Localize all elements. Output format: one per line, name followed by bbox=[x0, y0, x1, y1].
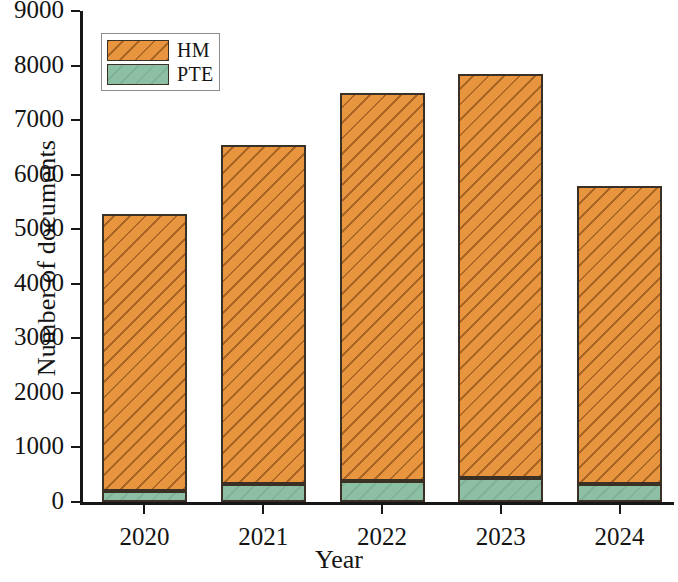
x-axis-tick bbox=[262, 503, 264, 514]
y-axis-tick: 6000 bbox=[71, 174, 80, 176]
legend-item-hm: HM bbox=[107, 38, 213, 62]
y-axis-tick: 8000 bbox=[71, 65, 80, 67]
bar-segment-hm[interactable] bbox=[577, 186, 662, 484]
y-axis-tick: 9000 bbox=[71, 10, 80, 12]
y-axis-tick-label: 2000 bbox=[14, 379, 64, 404]
y-axis-tick-label: 6000 bbox=[14, 161, 64, 186]
y-axis-tick: 3000 bbox=[71, 337, 80, 339]
y-axis-tick: 4000 bbox=[71, 283, 80, 285]
x-axis-tick-label: 2023 bbox=[436, 523, 566, 551]
y-axis-tick-label: 5000 bbox=[14, 215, 64, 240]
bar-stack[interactable] bbox=[102, 214, 187, 502]
x-axis-tick bbox=[381, 503, 383, 514]
bar-chart: Number of documents Year 010002000300040… bbox=[0, 0, 678, 582]
bar-segment-hm[interactable] bbox=[221, 145, 306, 484]
legend-label-hm: HM bbox=[177, 40, 210, 60]
y-axis-tick: 5000 bbox=[71, 228, 80, 230]
y-axis-tick-label: 8000 bbox=[14, 52, 64, 77]
bar-stack[interactable] bbox=[458, 74, 543, 502]
y-axis-tick-label: 0 bbox=[52, 488, 65, 513]
y-axis-tick-label: 7000 bbox=[14, 106, 64, 131]
legend-swatch-pte bbox=[107, 64, 169, 85]
bar-stack[interactable] bbox=[221, 145, 306, 502]
legend-label-pte: PTE bbox=[177, 64, 213, 84]
y-axis-tick: 7000 bbox=[71, 119, 80, 121]
y-axis-tick-label: 9000 bbox=[14, 0, 64, 22]
x-axis-tick bbox=[500, 503, 502, 514]
bar-stack[interactable] bbox=[577, 186, 662, 502]
y-axis-line bbox=[80, 11, 83, 505]
legend-item-pte: PTE bbox=[107, 62, 213, 86]
bar-segment-pte[interactable] bbox=[221, 484, 306, 502]
x-axis-tick bbox=[619, 503, 621, 514]
legend-swatch-hm bbox=[107, 40, 169, 61]
y-axis-tick: 1000 bbox=[71, 446, 80, 448]
x-axis-tick-label: 2021 bbox=[198, 523, 328, 551]
x-axis-tick bbox=[143, 503, 145, 514]
bar-segment-hm[interactable] bbox=[340, 93, 425, 481]
y-axis-tick-label: 1000 bbox=[14, 433, 64, 458]
bar-segment-pte[interactable] bbox=[102, 491, 187, 502]
x-axis-tick-label: 2024 bbox=[555, 523, 678, 551]
bar-stack[interactable] bbox=[340, 93, 425, 502]
bar-segment-hm[interactable] bbox=[102, 214, 187, 491]
x-axis-tick-label: 2020 bbox=[79, 523, 209, 551]
bar-segment-pte[interactable] bbox=[577, 484, 662, 502]
y-axis-tick-label: 3000 bbox=[14, 324, 64, 349]
legend: HM PTE bbox=[101, 33, 220, 91]
y-axis-tick: 0 bbox=[71, 501, 80, 503]
y-axis-tick-label: 4000 bbox=[14, 270, 64, 295]
bar-segment-pte[interactable] bbox=[458, 478, 543, 502]
x-axis-line bbox=[80, 502, 674, 505]
bar-segment-hm[interactable] bbox=[458, 74, 543, 478]
bar-segment-pte[interactable] bbox=[340, 481, 425, 502]
y-axis-tick: 2000 bbox=[71, 392, 80, 394]
x-axis-tick-label: 2022 bbox=[317, 523, 447, 551]
